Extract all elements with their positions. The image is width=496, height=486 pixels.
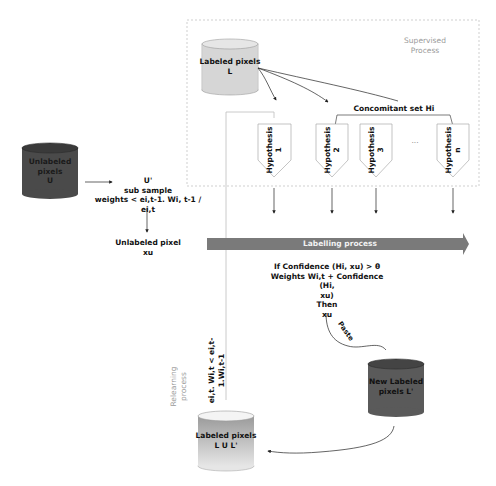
labeled-pixels-l-label: Labeled pixels L	[198, 57, 262, 76]
concomitant-set-label: Concomitant set Hi	[344, 104, 444, 114]
new-labeled-line2: pixels L'	[364, 387, 428, 397]
supervised-label-line1: Supervised	[390, 36, 460, 46]
labeled-union-line2: L U L'	[194, 441, 258, 451]
condition-line2: Weights Wi,t + Confidence (Hi,	[262, 272, 392, 291]
hypothesis-3-text: Hypothesis	[367, 126, 376, 173]
labeled-union-label: Labeled pixels L U L'	[194, 431, 258, 450]
labelling-process-label: Labelling process	[250, 239, 430, 249]
unlabeled-pixel-xu-label: Unlabeled pixel xu	[108, 238, 188, 257]
hypothesis-label-2: Hypothesis 2	[323, 120, 341, 180]
unlabeled-pixels-label: Unlabeled pixels U	[22, 157, 78, 186]
labeled-l-line1: Labeled pixels	[198, 57, 262, 67]
hypothesis-2-text: Hypothesis	[323, 126, 332, 173]
new-labeled-line1: New Labeled	[364, 377, 428, 387]
unlabeled-line1: Unlabeled	[22, 157, 78, 167]
relearn-weights-label: ei,t. Wi,t < ei,t- 1.Wi,t-1	[207, 331, 226, 411]
hypothesis-label-1: Hypothesis 1	[265, 120, 283, 180]
hypothesis-n-index: n	[453, 147, 462, 152]
subsample-line3: weights < ei,t-1. Wi, t-1 / ei,t	[88, 195, 208, 214]
condition-line4: Then	[262, 300, 392, 310]
condition-line5: xu	[262, 310, 392, 320]
hypothesis-n-text: Hypothesis	[444, 126, 453, 173]
relearn-weights-line1: ei,t. Wi,t < ei,t-	[207, 331, 217, 411]
unlabeled-line3: U	[22, 176, 78, 186]
hypothesis-1-text: Hypothesis	[265, 126, 274, 173]
hypothesis-label-n: Hypothesis n	[444, 120, 462, 180]
new-labeled-pixels-label: New Labeled pixels L'	[364, 377, 428, 396]
supervised-label-line2: Process	[390, 46, 460, 56]
hypothesis-1-index: 1	[274, 147, 283, 152]
hypothesis-ellipsis: ...	[400, 136, 430, 146]
labeled-l-line2: L	[198, 67, 262, 77]
relearn-weights-line2: 1.Wi,t-1	[216, 331, 226, 411]
hypothesis-2-index: 2	[332, 147, 341, 152]
subsample-line1: U'	[88, 176, 208, 186]
subsample-line2: sub sample	[88, 186, 208, 196]
relearning-process-label: Relearning process	[169, 357, 188, 417]
confidence-condition-label: If Confidence (Hi, xu) > θ Weights Wi,t …	[262, 262, 392, 319]
supervised-process-label: Supervised Process	[390, 36, 460, 55]
relearning-line1: Relearning	[169, 357, 179, 417]
unlabeled-line2: pixels	[22, 167, 78, 177]
relearning-line2: process	[178, 357, 188, 417]
labeled-union-line1: Labeled pixels	[194, 431, 258, 441]
subsample-label: U' sub sample weights < ei,t-1. Wi, t-1 …	[88, 176, 208, 214]
hypothesis-label-3: Hypothesis 3	[367, 120, 385, 180]
condition-line3: xu)	[262, 291, 392, 301]
unlabeled-pixel-line1: Unlabeled pixel	[108, 238, 188, 248]
hypothesis-3-index: 3	[376, 147, 385, 152]
condition-line1: If Confidence (Hi, xu) > θ	[262, 262, 392, 272]
unlabeled-pixel-line2: xu	[108, 248, 188, 258]
